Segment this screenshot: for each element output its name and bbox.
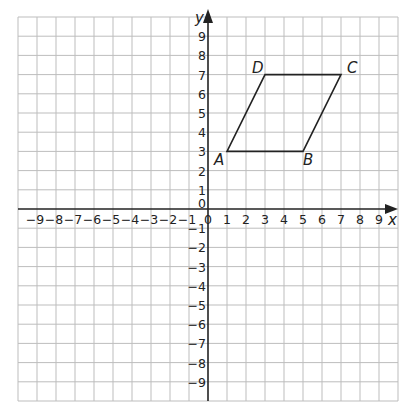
origin-label-y: 0 — [198, 196, 206, 211]
y-tick-label: 5 — [198, 106, 206, 121]
y-tick-label: 7 — [198, 68, 206, 83]
y-tick-label: 6 — [198, 87, 206, 102]
y-tick-label: −5 — [188, 298, 206, 313]
y-tick-label: 8 — [198, 48, 206, 63]
x-axis-label: x — [387, 211, 397, 229]
x-tick-label: −6 — [83, 212, 101, 227]
x-tick-label: 3 — [261, 212, 269, 227]
x-tick-label: −8 — [45, 212, 63, 227]
y-tick-label: −3 — [188, 260, 206, 275]
y-tick-label: −9 — [188, 375, 206, 390]
vertex-label-b: B — [303, 151, 313, 169]
y-tick-label: −8 — [188, 356, 206, 371]
y-tick-label: 2 — [198, 164, 206, 179]
x-tick-label: −9 — [26, 212, 44, 227]
parallelogram: ABCD — [213, 59, 358, 170]
coordinate-plane: xy −9−8−7−6−5−4−3−2−1123456789−9−8−7−6−5… — [0, 0, 409, 415]
x-tick-label: −7 — [64, 212, 82, 227]
y-tick-label: −4 — [188, 279, 206, 294]
y-axis-label: y — [194, 9, 205, 27]
x-tick-label: 5 — [299, 212, 307, 227]
y-tick-label: 9 — [198, 29, 206, 44]
y-axis-arrow-icon — [203, 9, 213, 23]
x-tick-label: −2 — [159, 212, 177, 227]
vertex-label-a: A — [213, 151, 224, 169]
y-tick-label: 3 — [198, 144, 206, 159]
x-tick-label: 9 — [375, 212, 383, 227]
x-tick-label: 4 — [280, 212, 288, 227]
x-tick-label: 7 — [337, 212, 345, 227]
x-tick-label: 8 — [356, 212, 364, 227]
y-tick-label: −7 — [188, 336, 206, 351]
x-tick-label: −5 — [102, 212, 120, 227]
y-tick-label: 4 — [198, 125, 206, 140]
x-tick-label: 1 — [223, 212, 231, 227]
vertex-label-d: D — [252, 59, 264, 77]
y-tick-label: −6 — [188, 317, 206, 332]
y-tick-label: −2 — [188, 240, 206, 255]
x-tick-label: 2 — [242, 212, 250, 227]
x-tick-label: −4 — [121, 212, 139, 227]
x-tick-label: −3 — [140, 212, 158, 227]
vertex-label-c: C — [347, 59, 358, 77]
x-tick-label: 6 — [318, 212, 326, 227]
origin-label-x: 0 — [204, 212, 212, 227]
